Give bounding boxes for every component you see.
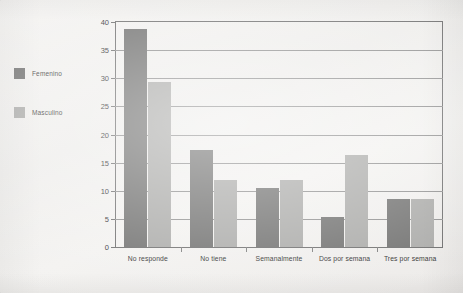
y-tick-label-40: 40 [101, 18, 109, 27]
y-tick-mark-35 [111, 50, 115, 51]
y-tick-label-30: 30 [101, 74, 109, 83]
bar-masculino-4 [411, 199, 434, 247]
bar-masculino-1 [214, 180, 237, 248]
legend-swatch-femenino [14, 68, 25, 79]
scanned-page: Femenino Masculino 0510152025303540 No r… [0, 0, 463, 293]
legend-item-femenino: Femenino [14, 68, 100, 79]
x-axis-label-0: No responde [115, 255, 181, 264]
x-axis-spine [115, 247, 443, 248]
legend-item-masculino: Masculino [14, 107, 100, 118]
y-tick-mark-15 [111, 163, 115, 164]
bar-femenino-4 [387, 199, 410, 247]
y-tick-label-15: 15 [101, 158, 109, 167]
bar-masculino-0 [148, 82, 171, 247]
x-axis-label-2: Semanalmente [246, 255, 312, 264]
y-tick-mark-25 [111, 106, 115, 107]
y-tick-mark-5 [111, 219, 115, 220]
y-tick-label-25: 25 [101, 102, 109, 111]
x-axis-separator-2 [312, 247, 313, 252]
x-axis-separator-3 [377, 247, 378, 252]
y-tick-label-10: 10 [101, 186, 109, 195]
bar-femenino-1 [190, 150, 213, 247]
plot-top-border [115, 21, 443, 22]
x-axis-label-3: Dos por semana [312, 255, 378, 264]
legend-swatch-masculino [14, 107, 25, 118]
y-tick-mark-30 [111, 78, 115, 79]
y-tick-mark-0 [111, 247, 115, 248]
chart-legend: Femenino Masculino [14, 68, 100, 146]
legend-label-femenino: Femenino [32, 70, 62, 77]
legend-label-masculino: Masculino [32, 109, 63, 116]
y-tick-mark-40 [111, 22, 115, 23]
bar-femenino-2 [256, 188, 279, 247]
x-axis-separator-0 [181, 247, 182, 252]
bar-masculino-2 [280, 180, 303, 248]
y-tick-label-20: 20 [101, 130, 109, 139]
bar-femenino-0 [124, 29, 147, 247]
y-tick-mark-20 [111, 135, 115, 136]
gridline-30 [115, 78, 443, 79]
x-axis-label-1: No tiene [181, 255, 247, 264]
gridline-35 [115, 50, 443, 51]
x-axis-separator-1 [246, 247, 247, 252]
x-axis-label-4: Tres por semana [377, 255, 443, 264]
y-tick-label-5: 5 [105, 214, 109, 223]
y-tick-label-35: 35 [101, 46, 109, 55]
bar-femenino-3 [321, 217, 344, 247]
chart-plot-area: 0510152025303540 No respondeNo tieneSema… [115, 22, 443, 247]
y-tick-mark-10 [111, 191, 115, 192]
y-tick-label-0: 0 [105, 243, 109, 252]
bar-masculino-3 [345, 155, 368, 247]
